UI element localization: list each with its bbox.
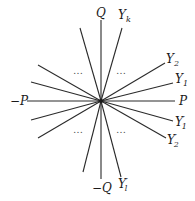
ellipsis-lower-left: …	[73, 124, 84, 135]
ray-yl-prime	[101, 101, 121, 177]
ray-lower-left-mid	[38, 101, 101, 138]
ellipsis-upper-left: …	[73, 65, 84, 76]
ray-lower-left-steep	[83, 101, 101, 172]
ellipsis-lower-right: …	[116, 124, 127, 135]
label-p: P	[178, 94, 188, 108]
label-neg-q: −Q	[92, 181, 112, 195]
ray-diagram: Q Yk Y2 Y1 P −P Y′1 Y′2 −Q Y′l … … … …	[0, 0, 195, 201]
center-point	[99, 99, 103, 103]
label-y1: Y1	[175, 72, 188, 88]
ray-y1-prime	[101, 101, 173, 121]
ray-lower-left-shallow	[31, 101, 101, 120]
label-neg-p: −P	[10, 94, 29, 108]
label-y1-prime: Y′1	[175, 114, 187, 131]
label-q: Q	[96, 6, 106, 20]
ray-y2-prime	[101, 101, 166, 138]
ellipsis-upper-right: …	[116, 65, 127, 76]
label-yk: Yk	[118, 8, 131, 24]
ray-y1	[101, 83, 173, 101]
label-yl-prime: Y′l	[118, 176, 128, 193]
label-y2-prime: Y′2	[167, 132, 179, 149]
label-y2: Y2	[166, 52, 179, 68]
ray-upper-left-shallow	[31, 82, 101, 101]
ray-upper-left-mid	[38, 65, 101, 101]
